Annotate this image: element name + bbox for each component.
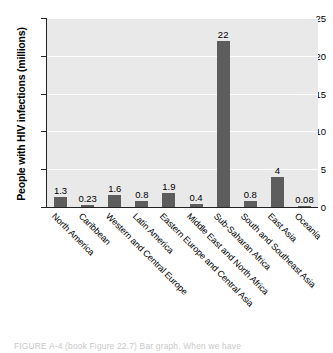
figure-caption: FIGURE A-4 (book Figure 22.7) Bar graph.… — [14, 341, 329, 351]
bar — [108, 195, 121, 207]
bar-value-label: 0.08 — [295, 194, 314, 205]
bar-value-label: 0.8 — [244, 189, 257, 200]
bar-value-label: 0.8 — [135, 189, 148, 200]
x-axis-line — [46, 207, 318, 208]
bar-value-label: 1.6 — [108, 183, 121, 194]
bar-value-label: 1.9 — [162, 181, 175, 192]
gridline-25 — [47, 18, 318, 19]
bar-value-label: 4 — [275, 165, 280, 176]
bar-value-label: 22 — [218, 29, 229, 40]
y-axis-title: People with HIV infections (millions) — [15, 14, 27, 214]
bar — [54, 197, 67, 207]
plot-area — [47, 18, 318, 207]
bar-value-label: 0.23 — [78, 193, 97, 204]
bar — [271, 177, 284, 207]
figure-container: People with HIV infections (millions) 05… — [0, 0, 333, 353]
bar — [217, 41, 230, 207]
y-axis-line — [46, 18, 47, 208]
gridline-10 — [47, 131, 318, 132]
bar-value-label: 1.3 — [54, 185, 67, 196]
bar-value-label: 0.4 — [189, 192, 202, 203]
gridline-20 — [47, 56, 318, 57]
bar — [162, 193, 175, 207]
gridline-15 — [47, 94, 318, 95]
